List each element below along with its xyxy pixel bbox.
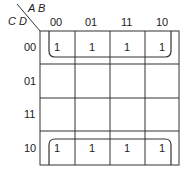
row-header-01: 01 [24, 76, 36, 87]
cell-r3-c2: 1 [124, 143, 130, 154]
col-header-01: 01 [85, 17, 97, 28]
cell-r0-c0: 1 [54, 42, 60, 53]
col-header-10: 10 [156, 17, 168, 28]
row-header-00: 00 [24, 42, 36, 53]
col-header-11: 11 [121, 17, 132, 28]
row-header-11: 11 [24, 109, 35, 120]
row-header-10: 10 [24, 143, 36, 154]
cell-r0-c2: 1 [124, 42, 130, 53]
col-var-label: A B [28, 3, 45, 14]
col-header-00: 00 [50, 17, 62, 28]
cell-r3-c0: 1 [54, 143, 60, 154]
cell-r3-c1: 1 [89, 143, 95, 154]
cell-r0-c3: 1 [159, 42, 165, 53]
cell-r0-c1: 1 [89, 42, 95, 53]
row-var-label: C D [8, 16, 27, 27]
cell-r3-c3: 1 [159, 143, 165, 154]
